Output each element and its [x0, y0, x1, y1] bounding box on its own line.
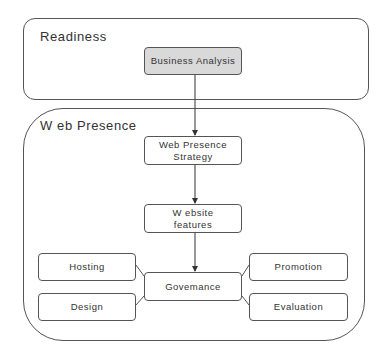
web-presence-label: W eb Presence	[40, 118, 137, 133]
website-features-label-line1: W ebsite	[173, 207, 214, 219]
design-node[interactable]: Design	[38, 293, 136, 321]
web-presence-strategy-node[interactable]: Web Presence Strategy	[144, 136, 242, 165]
promotion-label: Promotion	[275, 261, 323, 273]
evaluation-label: Evaluation	[274, 301, 323, 313]
governance-label: Govemance	[165, 281, 221, 293]
design-label: Design	[71, 301, 104, 313]
hosting-node[interactable]: Hosting	[38, 253, 136, 281]
business-analysis-node[interactable]: Business Analysis	[144, 47, 242, 75]
governance-node[interactable]: Govemance	[144, 272, 242, 301]
readiness-label: Readiness	[40, 29, 107, 44]
promotion-node[interactable]: Promotion	[249, 253, 348, 281]
hosting-label: Hosting	[69, 261, 105, 273]
evaluation-node[interactable]: Evaluation	[249, 293, 348, 321]
website-features-node[interactable]: W ebsite features	[144, 204, 242, 233]
website-features-label-line2: features	[174, 219, 212, 231]
web-presence-strategy-label-line1: Web Presence	[159, 139, 227, 151]
business-analysis-label: Business Analysis	[151, 55, 236, 67]
web-presence-strategy-label-line2: Strategy	[173, 151, 212, 163]
